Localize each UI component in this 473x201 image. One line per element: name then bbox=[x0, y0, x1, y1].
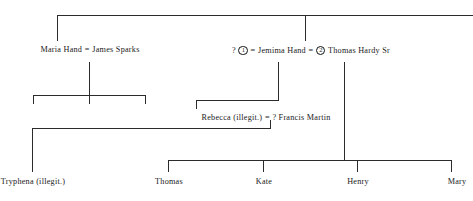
equals-sign: = bbox=[265, 114, 270, 122]
person-kate: Kate bbox=[256, 178, 272, 186]
person-jemima-hand: Jemima Hand bbox=[258, 47, 306, 55]
equals-sign: = bbox=[309, 47, 314, 55]
marriage-order-1-badge: 1 bbox=[239, 46, 248, 55]
union-rebecca-francis: Rebecca (illegit.) = ? Francis Martin bbox=[201, 114, 330, 122]
family-tree-diagram: Maria Hand = James Sparks ? 1 = Jemima H… bbox=[0, 0, 473, 201]
person-maria-hand: Maria Hand bbox=[40, 46, 82, 54]
unknown-spouse-marker: ? bbox=[232, 47, 236, 55]
equals-sign: = bbox=[250, 47, 255, 55]
person-thomas: Thomas bbox=[155, 178, 183, 186]
union-maria-james: Maria Hand = James Sparks bbox=[40, 46, 139, 54]
marriage-order-2-badge: 2 bbox=[316, 46, 325, 55]
person-mary: Mary bbox=[448, 178, 467, 186]
equals-sign: = bbox=[85, 46, 90, 54]
person-francis-martin: ? Francis Martin bbox=[272, 114, 330, 122]
union-jemima-hand: ? 1 = Jemima Hand = 2 Thomas Hardy Sr bbox=[232, 46, 390, 55]
person-henry: Henry bbox=[347, 178, 369, 186]
connector-lines bbox=[0, 0, 473, 201]
person-tryphena: Tryphena (illegit.) bbox=[1, 178, 65, 186]
person-james-sparks: James Sparks bbox=[92, 46, 139, 54]
person-rebecca: Rebecca (illegit.) bbox=[201, 114, 262, 122]
person-thomas-hardy-sr: Thomas Hardy Sr bbox=[328, 47, 390, 55]
